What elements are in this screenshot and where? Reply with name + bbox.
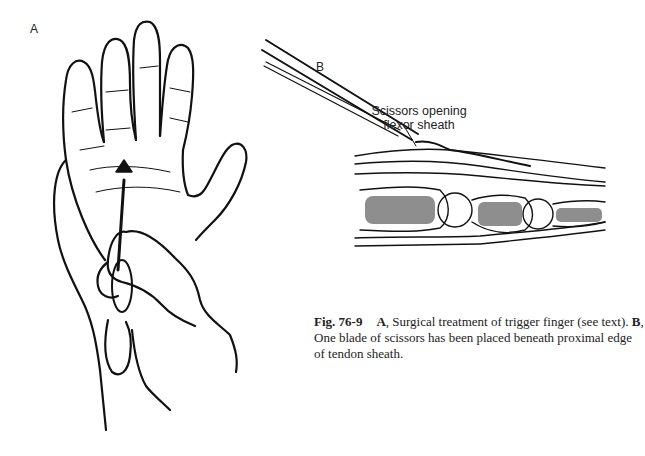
callout-line-2: flexor sheath — [359, 118, 479, 132]
caption-part-a-label: A — [376, 314, 385, 329]
scissors-a — [118, 180, 124, 270]
callout-line-1: Scissors opening — [359, 104, 479, 118]
panel-label-a: A — [30, 22, 38, 36]
figure-number: Fig. 76-9 — [314, 314, 362, 329]
panel-label-b: B — [316, 60, 324, 74]
caption-part-a-text: , Surgical treatment of trigger finger (… — [386, 314, 632, 329]
hand-outline — [63, 61, 105, 260]
figure-caption: Fig. 76-9A, Surgical treatment of trigge… — [314, 314, 644, 362]
callout-label: Scissors opening flexor sheath — [359, 104, 479, 132]
